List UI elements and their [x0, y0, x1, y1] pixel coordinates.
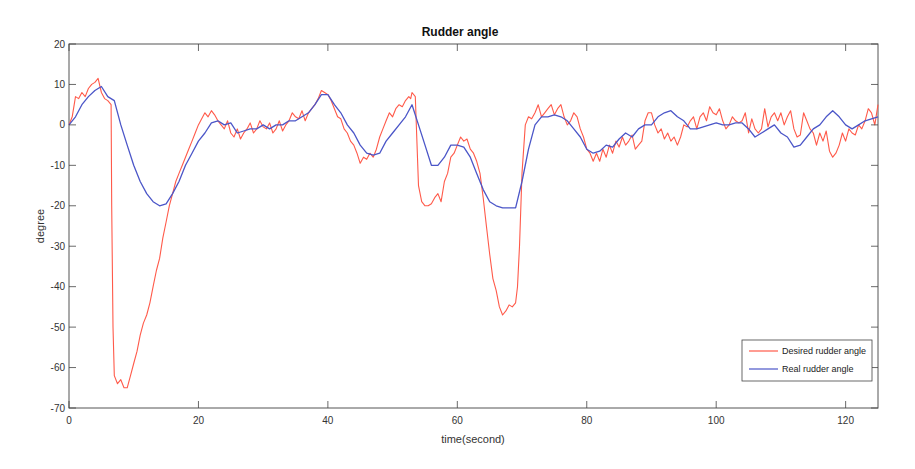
x-tick-label: 120	[837, 415, 854, 426]
y-tick-label: -20	[51, 200, 66, 211]
y-tick-label: -60	[51, 362, 66, 373]
y-axis-label: degree	[34, 209, 46, 243]
chart-title: Rudder angle	[422, 25, 499, 39]
legend: Desired rudder angle Real rudder angle	[742, 340, 872, 381]
x-tick-label: 60	[452, 415, 464, 426]
x-tick-label: 100	[708, 415, 725, 426]
legend-label-real: Real rudder angle	[782, 364, 854, 374]
x-tick-label: 40	[322, 415, 334, 426]
y-tick-label: -30	[51, 241, 66, 252]
x-tick-label: 80	[581, 415, 593, 426]
x-axis-label: time(second)	[441, 433, 505, 445]
y-tick-label: 0	[59, 119, 65, 130]
y-tick-label: -10	[51, 160, 66, 171]
legend-label-desired: Desired rudder angle	[782, 346, 866, 356]
y-tick-label: 20	[54, 39, 66, 50]
y-tick-label: 10	[54, 79, 66, 90]
x-tick-label: 20	[193, 415, 205, 426]
y-tick-label: -50	[51, 322, 66, 333]
x-tick-label: 0	[66, 415, 72, 426]
y-tick-label: -70	[51, 403, 66, 414]
rudder-angle-chart: Rudder angle 020406080100120 20100-10-20…	[0, 0, 915, 469]
y-tick-label: -40	[51, 281, 66, 292]
